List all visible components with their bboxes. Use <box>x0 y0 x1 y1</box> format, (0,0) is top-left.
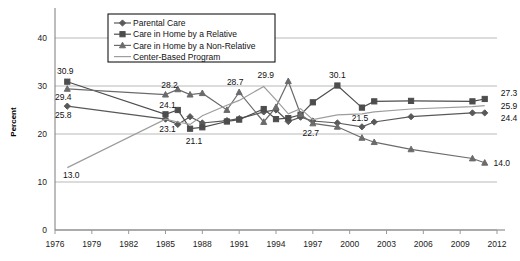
x-tick-label: 1988 <box>193 239 212 249</box>
data-label: 30.1 <box>329 70 346 80</box>
series-marker-0 <box>408 114 414 120</box>
series-marker-1 <box>482 96 487 101</box>
series-marker-2 <box>285 78 291 84</box>
y-tick-label: 0 <box>42 225 47 235</box>
series-marker-1 <box>224 119 229 124</box>
data-label: 21.1 <box>186 136 203 146</box>
series-marker-0 <box>64 103 70 109</box>
y-tick-label: 10 <box>38 177 48 187</box>
chart-container: 0102030401976197919821985198819911994199… <box>0 0 520 261</box>
series-marker-1 <box>163 112 168 117</box>
x-tick-label: 1991 <box>230 239 249 249</box>
x-tick-label: 2000 <box>340 239 359 249</box>
legend-label-3: Center-Based Program <box>133 52 220 62</box>
data-label: 28.2 <box>161 80 178 90</box>
legend-marker-1 <box>120 32 125 37</box>
series-marker-1 <box>200 125 205 130</box>
y-tick-label: 30 <box>38 81 48 91</box>
series-marker-2 <box>273 104 279 110</box>
x-tick-label: 1997 <box>303 239 322 249</box>
series-marker-1 <box>261 106 266 111</box>
series-line-3 <box>67 87 484 168</box>
legend-label-1: Care in Home by a Relative <box>133 29 237 39</box>
x-tick-label: 1979 <box>82 239 101 249</box>
x-tick-label: 2006 <box>414 239 433 249</box>
series-marker-1 <box>310 100 315 105</box>
data-label: 24.4 <box>501 113 518 123</box>
series-marker-1 <box>187 126 192 131</box>
series-marker-0 <box>469 110 475 116</box>
series-marker-0 <box>187 114 193 120</box>
y-axis-title: Percent <box>9 107 18 137</box>
x-tick-label: 2012 <box>488 239 507 249</box>
legend-label-2: Care in Home by a Non-Relative <box>133 41 256 51</box>
data-label: 25.8 <box>55 110 72 120</box>
y-tick-label: 20 <box>38 129 48 139</box>
data-label: 28.7 <box>227 77 244 87</box>
data-label: 29.4 <box>55 92 72 102</box>
series-marker-1 <box>175 107 180 112</box>
series-marker-2 <box>236 89 242 95</box>
series-marker-1 <box>286 116 291 121</box>
series-marker-1 <box>359 105 364 110</box>
series-marker-1 <box>65 79 70 84</box>
data-label: 14.0 <box>493 158 510 168</box>
x-tick-label: 1985 <box>156 239 175 249</box>
series-marker-0 <box>359 124 365 130</box>
x-tick-label: 1994 <box>267 239 286 249</box>
y-tick-label: 40 <box>38 33 48 43</box>
data-label: 25.9 <box>501 101 518 111</box>
series-marker-1 <box>408 98 413 103</box>
legend-label-0: Parental Care <box>133 18 186 28</box>
series-marker-2 <box>199 90 205 96</box>
x-tick-label: 1982 <box>119 239 138 249</box>
data-label: 22.7 <box>303 128 320 138</box>
data-label: 21.5 <box>352 113 369 123</box>
data-label: 29.9 <box>257 70 274 80</box>
data-label: 13.0 <box>63 170 80 180</box>
x-tick-label: 2003 <box>377 239 396 249</box>
data-label: 24.1 <box>159 100 176 110</box>
series-marker-1 <box>273 117 278 122</box>
series-marker-1 <box>470 99 475 104</box>
line-chart: 0102030401976197919821985198819911994199… <box>0 0 520 261</box>
series-marker-1 <box>372 99 377 104</box>
series-marker-0 <box>482 110 488 116</box>
series-marker-1 <box>237 117 242 122</box>
data-label: 23.1 <box>159 124 176 134</box>
data-label: 30.9 <box>57 66 74 76</box>
data-label: 27.3 <box>501 88 518 98</box>
series-marker-1 <box>335 83 340 88</box>
x-tick-label: 1976 <box>46 239 65 249</box>
x-tick-label: 2009 <box>451 239 470 249</box>
series-marker-0 <box>371 119 377 125</box>
